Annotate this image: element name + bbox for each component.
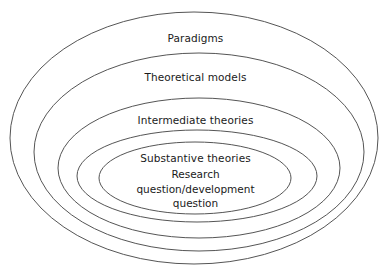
ellipse-ring-research-question: [99, 142, 291, 214]
ellipse-ring-paradigms: [10, 12, 378, 264]
ellipse-ring-intermediate-theories: [58, 98, 340, 238]
ellipse-ring-theoretical-models: [34, 53, 364, 251]
ellipse-ring-substantive-theories: [77, 130, 317, 222]
nested-ellipses-diagram: Paradigms Theoretical models Intermediat…: [0, 0, 391, 272]
ellipse-rings-canvas: [0, 0, 391, 272]
